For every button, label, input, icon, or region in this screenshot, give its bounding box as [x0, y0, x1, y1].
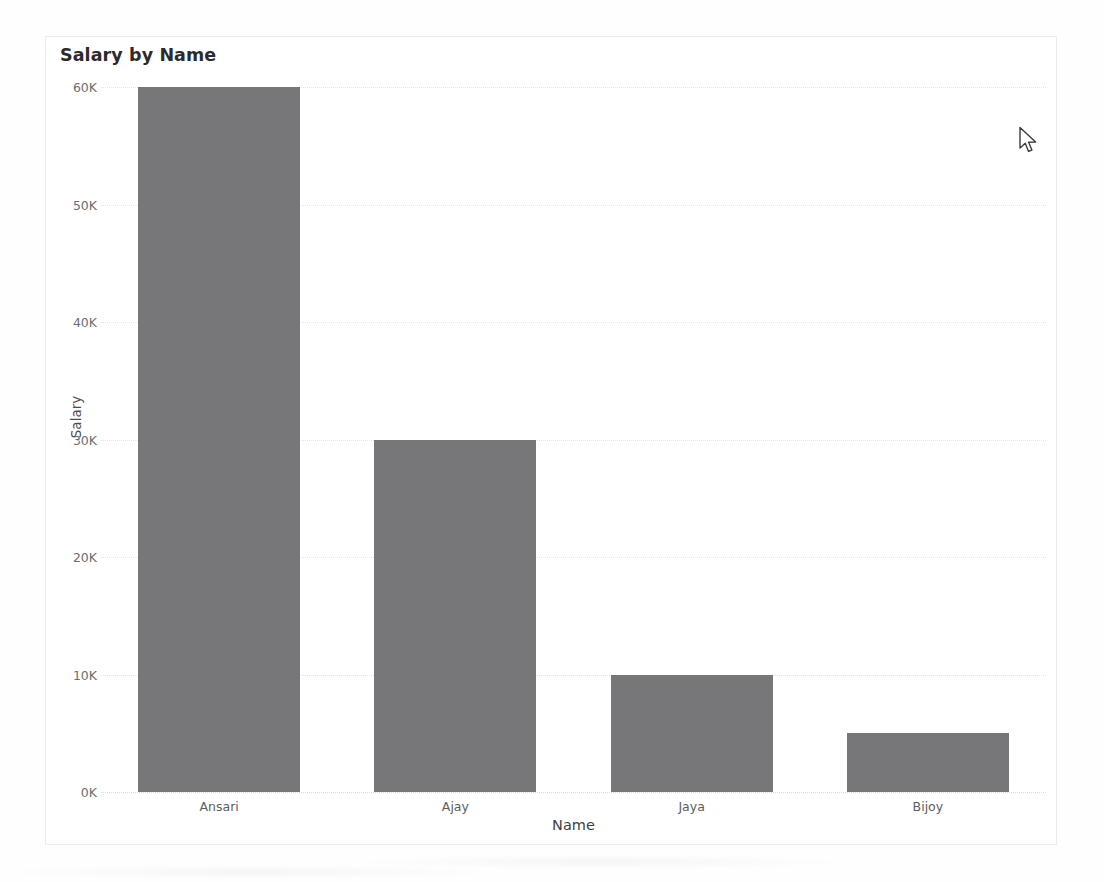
plot-area[interactable]: AnsariAjayJayaBijoy	[101, 87, 1046, 792]
y-axis-tick-label: 40K	[73, 315, 97, 330]
y-axis-tick-label: 60K	[73, 80, 97, 95]
y-axis-tick-label: 10K	[73, 667, 97, 682]
chart-title: Salary by Name	[60, 45, 216, 65]
y-axis-tick-label: 0K	[81, 785, 97, 800]
x-axis-tick-label: Ajay	[337, 799, 573, 814]
x-axis-title: Name	[101, 817, 1046, 833]
chart-card[interactable]: Salary by Name Salary 0K10K20K30K40K50K6…	[45, 36, 1057, 845]
y-axis-tick-label: 50K	[73, 197, 97, 212]
x-axis-tick-label: Bijoy	[810, 799, 1046, 814]
y-axis-tick-label: 30K	[73, 432, 97, 447]
bar-bijoy[interactable]	[847, 733, 1009, 792]
x-axis-tick-label: Ansari	[101, 799, 337, 814]
bar-jaya[interactable]	[611, 675, 773, 793]
gridline	[101, 792, 1046, 793]
bar-ansari[interactable]	[138, 87, 300, 792]
y-axis-tick-label: 20K	[73, 550, 97, 565]
bar-ajay[interactable]	[374, 440, 536, 793]
x-axis-tick-label: Jaya	[574, 799, 810, 814]
y-axis-tick-labels: 0K10K20K30K40K50K60K	[52, 87, 97, 792]
